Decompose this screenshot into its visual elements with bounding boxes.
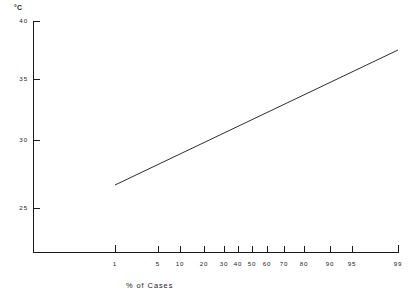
- x-tick-label-90: 90: [326, 261, 335, 267]
- x-tick-label-1: 1: [113, 261, 117, 267]
- y-tick-label-30: 30: [8, 137, 28, 143]
- x-tick-label-50: 50: [248, 261, 257, 267]
- x-tick-label-70: 70: [280, 261, 289, 267]
- y-tick-label-40: 40: [8, 18, 28, 24]
- x-tick-label-5: 5: [156, 261, 160, 267]
- x-axis-title: % of Cases: [126, 282, 173, 289]
- x-tick-label-30: 30: [220, 261, 229, 267]
- x-axis-ticks: [116, 245, 399, 253]
- y-tick-label-25: 25: [8, 205, 28, 211]
- x-tick-label-40: 40: [234, 261, 243, 267]
- probability-plot-figure: °C 4: [0, 0, 414, 298]
- x-tick-label-20: 20: [200, 261, 209, 267]
- x-tick-label-60: 60: [263, 261, 272, 267]
- plot-canvas: [0, 0, 414, 298]
- x-tick-label-80: 80: [300, 261, 309, 267]
- data-series-line: [115, 50, 398, 185]
- y-axis-ticks: [34, 22, 41, 209]
- x-tick-label-99: 99: [394, 261, 403, 267]
- y-tick-label-35: 35: [8, 76, 28, 82]
- x-tick-label-10: 10: [176, 261, 185, 267]
- x-tick-label-95: 95: [348, 261, 357, 267]
